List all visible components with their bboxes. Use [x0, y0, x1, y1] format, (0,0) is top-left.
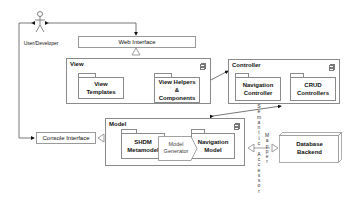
navigation-controller[interactable]: Navigation Controller [235, 73, 281, 101]
crud-controllers[interactable]: CRUD Controllers [290, 73, 336, 101]
view-templates-label: View Templates [78, 77, 124, 99]
controller-title: Controller [232, 62, 261, 68]
actor-label: User/Developer [14, 40, 68, 46]
view-title: View [70, 61, 84, 67]
mapper-label: M a p p e r [264, 133, 270, 165]
controller-package[interactable]: Controller Navigation Controller CRUD Co… [228, 59, 340, 104]
view-package[interactable]: View View Templates View Helpers & Compo… [66, 58, 211, 104]
component-icon [330, 64, 335, 70]
view-helpers-label: View Helpers & Components [154, 77, 200, 103]
actor-icon [33, 10, 47, 34]
component-icon [235, 123, 240, 129]
view-helpers-components[interactable]: View Helpers & Components [154, 73, 200, 103]
model-title: Model [109, 121, 126, 127]
component-icon [201, 63, 206, 69]
model-package[interactable]: Model SHDM Metamodel Navigation Model Mo… [105, 118, 245, 166]
navigation-controller-label: Navigation Controller [235, 77, 281, 101]
semantic-accessor-label: S e m a n t i c A c c e s s o r [256, 104, 262, 194]
web-interface[interactable]: Web Interface [78, 36, 196, 48]
console-interface[interactable]: Console Interface [36, 132, 96, 144]
crud-controllers-label: CRUD Controllers [290, 77, 336, 101]
view-templates[interactable]: View Templates [78, 73, 124, 99]
database-backend-label: Database Backend [280, 140, 339, 156]
model-generator-label: Model Generator [159, 141, 193, 155]
